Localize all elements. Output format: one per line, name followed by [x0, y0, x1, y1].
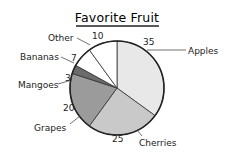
value-grapes: 20	[63, 103, 75, 113]
leader-grapes	[70, 116, 80, 124]
leader-cherries	[137, 130, 142, 136]
value-mangoes: 3	[65, 73, 71, 83]
label-grapes: Grapes	[34, 123, 66, 133]
label-other: Other	[48, 33, 74, 43]
label-bananas: Bananas	[20, 52, 59, 62]
pie-chart: Favorite Fruit Apples Cherries Grapes Ma…	[0, 0, 233, 155]
label-apples: Apples	[188, 46, 219, 56]
chart-title: Favorite Fruit	[75, 10, 159, 25]
label-mangoes: Mangoes	[18, 80, 59, 90]
value-bananas: 7	[71, 53, 77, 63]
value-apples: 35	[143, 37, 154, 47]
label-cherries: Cherries	[139, 138, 177, 148]
value-cherries: 25	[112, 134, 123, 144]
leader-other	[77, 38, 90, 45]
value-other: 10	[92, 31, 104, 41]
